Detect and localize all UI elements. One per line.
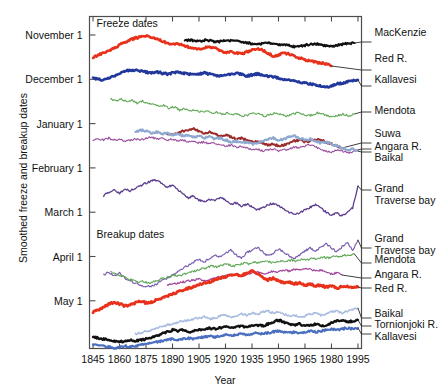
- series-leader-line: [358, 320, 372, 326]
- series-label: MacKenzie: [375, 26, 427, 38]
- series-leader-line: [358, 149, 372, 150]
- y-tick-label: January 1: [36, 118, 82, 130]
- x-tick-label: 1845: [81, 353, 105, 365]
- series-label: Baikal: [375, 151, 404, 163]
- plot-annotation: Breakup dates: [97, 228, 165, 240]
- series-line: [167, 128, 342, 148]
- series-line: [93, 271, 358, 313]
- x-tick-label: 1875: [134, 353, 158, 365]
- series-leader-line: [342, 143, 371, 148]
- series-label: Suwa: [375, 127, 401, 139]
- series-line: [111, 98, 355, 117]
- series-leader-line: [358, 186, 372, 190]
- plot-annotation: Freeze dates: [97, 17, 158, 29]
- series-line: [111, 254, 355, 284]
- series-line: [104, 179, 358, 216]
- series-leader-line: [358, 287, 372, 288]
- series-line: [104, 240, 358, 287]
- x-tick-label: 1980: [320, 353, 344, 365]
- x-tick-label: 1965: [293, 353, 317, 365]
- series-label: Kallavesi: [375, 330, 417, 342]
- series-leader-line: [354, 112, 371, 114]
- series-leader-line: [342, 275, 371, 278]
- y-tick-label: April 1: [53, 251, 83, 263]
- x-tick-label: 1995: [346, 353, 370, 365]
- y-tick-label: May 1: [54, 295, 83, 307]
- x-tick-label: 1950: [267, 353, 291, 365]
- series-label: Mendota: [375, 253, 416, 265]
- series-label: Tornionjoki R.: [375, 318, 439, 330]
- y-tick-label: November 1: [25, 29, 82, 41]
- series-leader-line: [358, 151, 372, 152]
- series-leader-line: [358, 308, 372, 318]
- x-tick-label: 1860: [108, 353, 132, 365]
- x-tick-label: 1920: [214, 353, 238, 365]
- series-leader-line: [331, 66, 371, 70]
- series-leader-line: [358, 328, 372, 334]
- chart-svg: 1845186018751890190519201935195019651980…: [0, 0, 441, 392]
- series-leader-line: [358, 80, 372, 86]
- y-tick-label: March 1: [45, 206, 83, 218]
- series-line: [93, 70, 358, 88]
- figure-container: Smoothed freeze and breakup dates Year 1…: [0, 0, 441, 392]
- plot-frame: [90, 17, 362, 349]
- series-leader-line: [354, 42, 371, 43]
- y-tick-label: February 1: [32, 162, 83, 174]
- series-label: Traverse bay: [375, 194, 437, 206]
- x-tick-label: 1905: [187, 353, 211, 365]
- y-tick-label: December 1: [25, 73, 82, 85]
- series-label: Mendota: [375, 104, 416, 116]
- x-tick-label: 1890: [161, 353, 185, 365]
- series-label: Angara R.: [375, 268, 422, 280]
- series-label: Grand: [375, 182, 404, 194]
- series-label: Kallavesi: [375, 73, 417, 85]
- series-label: Red R.: [375, 52, 408, 64]
- series-leader-line: [358, 240, 372, 248]
- plot-layer: 1845186018751890190519201935195019651980…: [25, 17, 438, 365]
- series-leader-line: [354, 254, 371, 263]
- series-label: Red R.: [375, 282, 408, 294]
- x-tick-label: 1935: [240, 353, 264, 365]
- series-label: Grand: [375, 232, 404, 244]
